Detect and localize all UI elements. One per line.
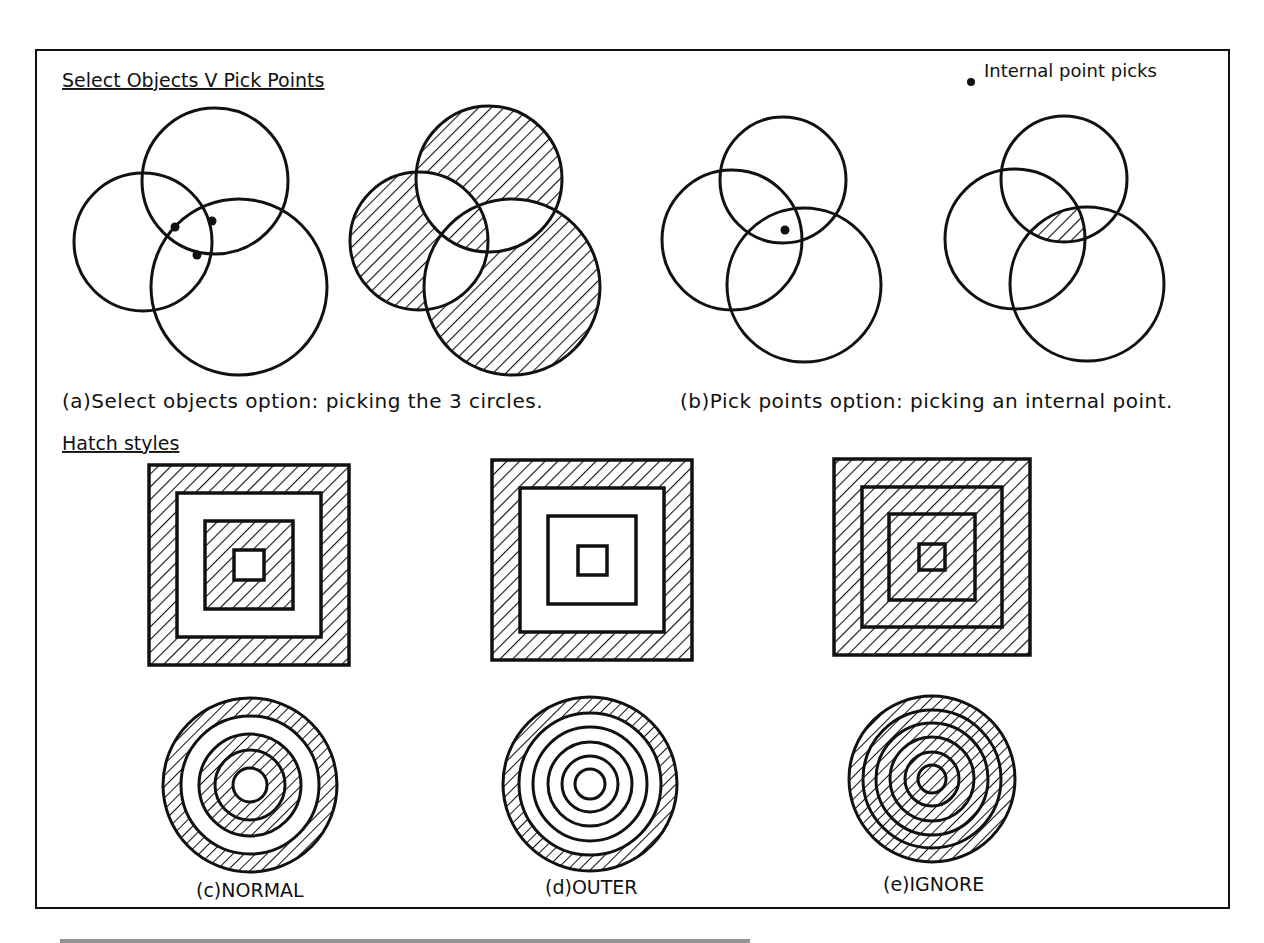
panel-a-before [74, 108, 327, 375]
clipped-footer-caption [60, 939, 750, 943]
section-heading-hatch-styles: Hatch styles [62, 432, 179, 454]
hatched-region [350, 106, 600, 375]
pick-dot-icon [208, 217, 217, 226]
outer-circles [503, 697, 677, 871]
figure-canvas: Select Objects V Pick Points Internal po… [0, 0, 1264, 943]
circle-1 [720, 117, 846, 243]
circle-3 [1010, 207, 1164, 361]
normal-squares [149, 465, 349, 665]
pick-dot-icon [171, 223, 180, 232]
caption-ignore: (e)IGNORE [883, 873, 984, 895]
circle-3 [727, 208, 881, 362]
caption-outer: (d)OUTER [545, 876, 638, 898]
caption-panel-a: (a)Select objects option: picking the 3 … [62, 389, 543, 413]
circle-1 [142, 108, 288, 254]
hatched-region [492, 460, 692, 660]
panel-b-before [662, 117, 881, 362]
pick-dot-icon [193, 251, 202, 260]
panel-b-after [945, 116, 1164, 361]
legend-label: Internal point picks [984, 60, 1157, 81]
normal-circles [163, 698, 337, 872]
panel-a-after [350, 106, 600, 375]
caption-panel-b: (b)Pick points option: picking an intern… [680, 389, 1173, 413]
legend-internal-point-picks: Internal point picks [967, 60, 1157, 86]
circle-2 [662, 170, 802, 310]
pick-dot-icon [967, 78, 975, 86]
caption-normal: (c)NORMAL [196, 879, 304, 901]
outer-squares [492, 460, 692, 660]
ignore-circles [849, 696, 1015, 862]
ignore-squares [834, 459, 1030, 655]
section-heading-select-vs-pick: Select Objects V Pick Points [62, 69, 324, 91]
pick-dot-icon [781, 226, 790, 235]
hatched-region [149, 465, 349, 665]
